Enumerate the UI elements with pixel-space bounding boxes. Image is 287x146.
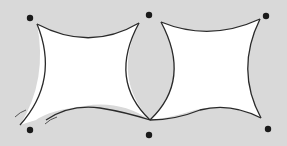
anchor-top-left-icon — [27, 15, 33, 21]
wind-mark-1 — [15, 110, 26, 117]
anchor-top-middle-icon — [146, 12, 152, 18]
anchor-bottom-middle-icon — [146, 132, 152, 138]
diagram-canvas — [0, 0, 287, 146]
anchor-bottom-right-icon — [265, 126, 271, 132]
shade-sail-diagram — [0, 0, 287, 146]
anchor-bottom-left-icon — [27, 127, 33, 133]
wind-mark-2 — [45, 117, 57, 124]
anchor-top-right-icon — [263, 13, 269, 19]
